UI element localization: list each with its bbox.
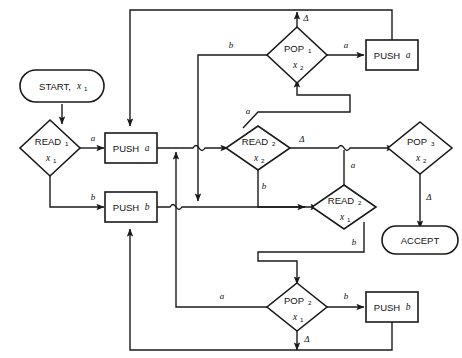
node-read2-x2-varsub: 2 — [261, 157, 265, 164]
edge-label-read2a-a: a — [246, 106, 251, 116]
edge-label-pop1-b: b — [229, 40, 234, 50]
node-push-b-left-var: b — [145, 202, 150, 212]
node-pop2: POP 2 x 1 — [267, 283, 327, 331]
node-push-b-bottom-var: b — [406, 302, 411, 312]
node-read2-x1-label: READ — [328, 195, 355, 206]
node-read2-x2-label: READ — [242, 136, 269, 147]
node-read2-x2-var: x — [253, 153, 259, 163]
node-pop3-label: POP — [407, 136, 427, 147]
edge-label-read2a-delta: Δ — [298, 134, 304, 144]
node-pop2-var: x — [292, 312, 298, 322]
node-read2-x1: READ 2 x 1 — [312, 185, 376, 229]
edge-label-pop2-a: a — [220, 291, 225, 301]
node-pop3: POP 3 x 2 — [388, 122, 452, 174]
node-read2-x2-index: 2 — [272, 140, 276, 147]
edge-label-read1-a: a — [91, 133, 96, 143]
node-pop3-index: 3 — [431, 140, 435, 147]
node-pop1-var: x — [292, 60, 298, 70]
node-read1: READ 1 x 1 — [20, 120, 80, 176]
node-push-a-left: PUSH a — [105, 133, 157, 163]
edge-label-pop1-delta: Δ — [302, 13, 308, 23]
node-start-label: START, — [39, 81, 71, 92]
node-pop1-label: POP — [284, 43, 304, 54]
node-read2-x1-varsub: 1 — [347, 216, 351, 223]
node-read2-x1-var: x — [339, 212, 345, 222]
node-read1-index: 1 — [65, 140, 69, 147]
node-push-a-top: PUSH a — [366, 40, 418, 70]
edge-read2a-b-to-read2b — [258, 168, 318, 207]
edge-label-read2a-b: b — [262, 181, 267, 191]
node-read1-var: x — [45, 153, 51, 163]
node-push-a-top-var: a — [406, 50, 411, 60]
edge-read1-b-to-pushb — [50, 172, 104, 207]
node-accept: ACCEPT — [382, 226, 458, 254]
edge-label-read1-b: b — [91, 192, 96, 202]
edge-label-read2b-b: b — [352, 237, 357, 247]
edge-read2b-b-to-pop2 — [258, 222, 364, 284]
node-pop3-varsub: 2 — [423, 157, 427, 164]
node-read1-varsub: 1 — [53, 157, 57, 164]
node-push-a-top-label: PUSH — [374, 50, 401, 61]
node-push-b-bottom: PUSH b — [366, 292, 418, 322]
edge-label-read2b-a: a — [351, 160, 356, 170]
node-pop1-index: 1 — [308, 47, 312, 54]
edge-label-pop2-b: b — [344, 291, 349, 301]
flowchart-diagram: PUSH a (left) --> down then right into P… — [0, 0, 462, 358]
node-pop1: POP 1 x 2 — [267, 27, 327, 83]
node-start: START, x 1 — [20, 70, 104, 102]
flowchart-canvas: PUSH a (left) --> down then right into P… — [0, 0, 462, 358]
edge-label-pop1-a: a — [344, 40, 349, 50]
node-pop2-label: POP — [284, 295, 304, 306]
edge-read2a-delta-to-pop3 — [288, 146, 394, 151]
edge-label-pop3-delta: Δ — [425, 192, 431, 202]
node-pop1-varsub: 2 — [300, 64, 304, 71]
node-push-b-left: PUSH b — [105, 192, 157, 222]
edge-bottom-feedback-rail — [130, 229, 392, 350]
node-accept-label: ACCEPT — [401, 235, 440, 246]
edge-top-feedback-rail — [130, 10, 392, 126]
edge-pusha-left-out — [156, 146, 228, 151]
connector-layer: PUSH a (left) --> down then right into P… — [50, 10, 420, 350]
edge-read2a-a-to-pop1 — [243, 80, 350, 128]
node-push-b-bottom-label: PUSH — [374, 302, 401, 313]
node-start-var: x — [76, 81, 82, 91]
node-push-b-left-label: PUSH — [113, 202, 140, 213]
node-pop2-varsub: 1 — [300, 316, 304, 323]
node-pop3-var: x — [415, 153, 421, 163]
node-start-sub: 1 — [84, 85, 88, 92]
node-pop2-index: 2 — [308, 299, 312, 306]
node-read2-x1-index: 2 — [358, 199, 362, 206]
edge-label-pop2-delta: Δ — [303, 334, 309, 344]
edge-pop2-a-up-to-pusha-bus — [176, 152, 268, 307]
node-push-a-left-var: a — [145, 143, 150, 153]
node-push-a-left-label: PUSH — [113, 143, 140, 154]
node-read1-label: READ — [35, 136, 62, 147]
node-read2-x2: READ 2 x 2 — [226, 126, 290, 170]
